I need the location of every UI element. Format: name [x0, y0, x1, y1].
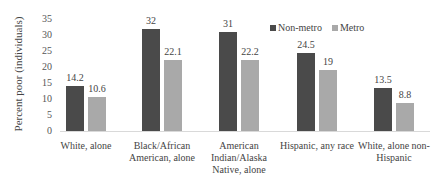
y-tick-label: 25 [38, 45, 52, 56]
legend: Non-metro Metro [270, 22, 374, 33]
legend-item-metro: Metro [332, 22, 364, 33]
bar-metro [164, 60, 182, 131]
y-tick-label: 0 [38, 125, 52, 136]
value-label: 8.8 [390, 89, 420, 100]
value-label: 13.5 [368, 74, 398, 85]
legend-swatch-metro [332, 25, 338, 31]
y-tick-label: 20 [38, 61, 52, 72]
legend-label: Non-metro [278, 22, 322, 33]
bar-non-metro [142, 29, 160, 131]
value-label: 14.2 [60, 72, 90, 83]
value-label: 31 [213, 18, 243, 29]
bar-metro [319, 70, 337, 131]
x-axis-line [60, 131, 430, 132]
y-tick-label: 5 [38, 109, 52, 120]
y-tick-label: 10 [38, 93, 52, 104]
bar-metro [396, 103, 414, 131]
legend-label: Metro [340, 22, 364, 33]
value-label: 10.6 [82, 83, 112, 94]
y-tick-label: 30 [38, 29, 52, 40]
y-tick-label: 15 [38, 77, 52, 88]
value-label: 32 [136, 15, 166, 26]
value-label: 22.2 [235, 46, 265, 57]
y-axis-label: Percent poor (individuals) [12, 14, 24, 134]
bar-chart: Percent poor (individuals) 0510152025303… [0, 0, 447, 176]
category-label: White, alone non-Hispanic [349, 140, 439, 164]
category-label: AmericanIndian/AlaskaNative, alone [194, 140, 284, 176]
bar-metro [241, 60, 259, 131]
value-label: 19 [313, 56, 343, 67]
y-tick-label: 35 [38, 13, 52, 24]
value-label: 24.5 [291, 39, 321, 50]
legend-swatch-non-metro [270, 25, 276, 31]
legend-item-non-metro: Non-metro [270, 22, 322, 33]
value-label: 22.1 [158, 46, 188, 57]
bar-metro [88, 97, 106, 131]
